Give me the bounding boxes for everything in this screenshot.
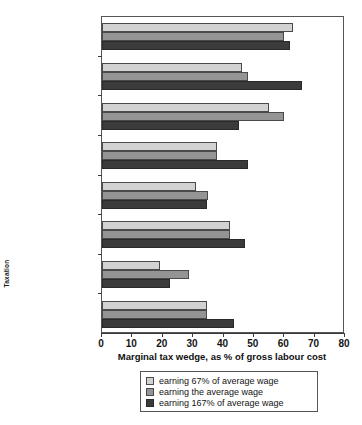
legend-item: earning 167% of average wage (146, 397, 312, 408)
x-axis-tick (192, 333, 193, 337)
bar-group (102, 182, 343, 209)
x-axis-tick-label: 60 (271, 338, 295, 349)
x-axis-tick (253, 333, 254, 337)
bar (102, 160, 248, 169)
bar-group (102, 23, 343, 50)
bar (102, 261, 160, 270)
bar (102, 230, 230, 239)
chart-legend: earning 67% of average wageearning the a… (140, 371, 318, 412)
bar-chart-figure: Taxation FranceSwedenGermanyUnited Kingd… (0, 0, 362, 425)
category-tick (98, 135, 102, 136)
bar (102, 32, 284, 41)
legend-swatch-icon (146, 377, 154, 385)
bar-group (102, 103, 343, 130)
x-axis-tick (162, 333, 163, 337)
plot-area (101, 16, 344, 333)
bar (102, 103, 269, 112)
x-axis-tick (314, 333, 315, 337)
bar (102, 81, 302, 90)
legend-label: earning the average wage (159, 387, 263, 397)
category-tick (98, 95, 102, 96)
legend-swatch-icon (146, 388, 154, 396)
category-tick (98, 254, 102, 255)
x-axis-tick-label: 50 (241, 338, 265, 349)
bar (102, 279, 170, 288)
legend-item: earning the average wage (146, 386, 312, 397)
x-axis-tick-label: 70 (302, 338, 326, 349)
bar (102, 182, 196, 191)
x-axis-tick (101, 333, 102, 337)
bar (102, 239, 245, 248)
bar (102, 221, 230, 230)
x-axis-tick (283, 333, 284, 337)
bar (102, 112, 284, 121)
x-axis-title: Marginal tax wedge, as % of gross labour… (88, 351, 356, 362)
bar (102, 151, 217, 160)
bar (102, 301, 207, 310)
bar (102, 23, 293, 32)
bar-group (102, 142, 343, 169)
bar (102, 191, 208, 200)
bar-group (102, 301, 343, 328)
bar (102, 121, 239, 130)
category-tick (98, 56, 102, 57)
bar (102, 72, 248, 81)
bar (102, 63, 242, 72)
y-axis-title: Taxation (3, 254, 10, 294)
bar-group (102, 261, 343, 288)
bar (102, 41, 290, 50)
x-axis-tick-label: 20 (150, 338, 174, 349)
bar (102, 310, 207, 319)
x-axis-tick-label: 30 (180, 338, 204, 349)
x-axis-tick-label: 80 (332, 338, 356, 349)
category-tick (98, 293, 102, 294)
x-axis-tick-label: 10 (119, 338, 143, 349)
legend-label: earning 67% of average wage (159, 376, 279, 386)
bar (102, 142, 217, 151)
bar (102, 270, 189, 279)
bar-group (102, 63, 343, 90)
bars-layer (102, 17, 343, 332)
bar (102, 319, 234, 328)
category-tick (98, 175, 102, 176)
x-axis-tick (223, 333, 224, 337)
x-axis-tick-label: 0 (89, 338, 113, 349)
bar (102, 200, 207, 209)
x-axis-tick (344, 333, 345, 337)
x-axis-tick (131, 333, 132, 337)
category-tick (98, 214, 102, 215)
legend-swatch-icon (146, 399, 154, 407)
legend-label: earning 167% of average wage (159, 398, 284, 408)
x-axis-tick-label: 40 (211, 338, 235, 349)
legend-item: earning 67% of average wage (146, 375, 312, 386)
bar-group (102, 221, 343, 248)
